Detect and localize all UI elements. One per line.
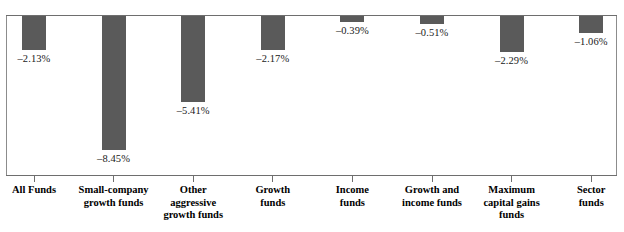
bar-value-label: –8.45% <box>74 153 154 164</box>
bar <box>22 16 46 50</box>
plot-frame <box>6 15 617 175</box>
bar-value-label: –2.29% <box>472 55 552 66</box>
axis-tick <box>591 175 592 182</box>
category-label: Other aggressive growth funds <box>148 184 238 222</box>
axis-tick <box>352 175 353 182</box>
axis-tick <box>432 175 433 182</box>
axis-tick <box>272 175 273 182</box>
axis-tick <box>511 175 512 182</box>
zero-baseline <box>6 15 617 16</box>
bar <box>420 16 444 24</box>
bar <box>340 16 364 22</box>
axis-tick <box>113 175 114 182</box>
category-label: Growth funds <box>228 184 318 209</box>
bar-value-label: –2.17% <box>233 53 313 64</box>
bar-value-label: –1.06% <box>551 36 624 47</box>
category-label: Sector funds <box>546 184 624 209</box>
axis-tick <box>193 175 194 182</box>
bar <box>181 16 205 102</box>
bar-value-label: –0.39% <box>312 25 392 36</box>
category-label: Growth and income funds <box>387 184 477 209</box>
bar <box>261 16 285 50</box>
category-label: Maximum capital gains funds <box>467 184 557 222</box>
bar-value-label: –2.13% <box>0 53 74 64</box>
category-axis-line <box>6 175 617 176</box>
bar <box>579 16 603 33</box>
bar <box>102 16 126 150</box>
bar-chart: –2.13%–8.45%–5.41%–2.17%–0.39%–0.51%–2.2… <box>0 0 624 232</box>
axis-tick <box>34 175 35 182</box>
bar <box>500 16 524 52</box>
bar-value-label: –0.51% <box>392 27 472 38</box>
category-label: Income funds <box>307 184 397 209</box>
bar-value-label: –5.41% <box>153 105 233 116</box>
category-label: All Funds <box>0 184 79 197</box>
category-label: Small-company growth funds <box>69 184 159 209</box>
